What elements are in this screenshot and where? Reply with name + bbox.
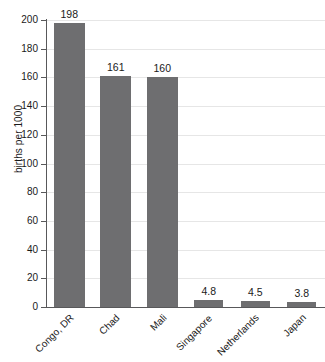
y-axis-tick-label: 60 xyxy=(6,216,38,226)
bar[interactable] xyxy=(194,300,223,307)
x-axis-category-label[interactable]: Singapore xyxy=(174,312,214,352)
y-axis-tick-label: 80 xyxy=(6,187,38,197)
x-axis-category-label[interactable]: Chad xyxy=(97,312,122,337)
bar-value-label: 4.5 xyxy=(230,287,280,298)
y-axis-tick-label: 180 xyxy=(6,44,38,54)
bar-value-label: 160 xyxy=(137,63,187,74)
y-axis-tick-label: 140 xyxy=(6,101,38,111)
y-axis-tick-label: 0 xyxy=(6,302,38,312)
bar[interactable] xyxy=(54,23,85,307)
y-axis-tick-label: 100 xyxy=(6,159,38,169)
bar-value-label: 4.8 xyxy=(184,286,234,297)
x-axis-category-label[interactable]: Netherlands xyxy=(215,312,261,358)
y-axis-tick-label: 20 xyxy=(6,273,38,283)
bar[interactable] xyxy=(287,302,316,307)
bar-value-label: 198 xyxy=(44,9,94,20)
bar[interactable] xyxy=(147,77,178,307)
bar-chart: births per 1000 020406080100120140160180… xyxy=(0,0,325,362)
y-axis-tick-label: 40 xyxy=(6,245,38,255)
y-axis-tick-label: 160 xyxy=(6,72,38,82)
y-axis-tick-label: 120 xyxy=(6,130,38,140)
x-axis-category-label[interactable]: Japan xyxy=(281,312,308,339)
bar[interactable] xyxy=(241,301,270,307)
bar-value-label: 161 xyxy=(91,62,141,73)
x-axis-category-label[interactable]: Mali xyxy=(148,312,169,333)
bar-value-label: 3.8 xyxy=(277,288,325,299)
x-axis-line xyxy=(46,307,325,308)
y-axis-tick xyxy=(41,307,46,308)
bar[interactable] xyxy=(100,76,131,307)
y-axis-tick-label: 200 xyxy=(6,15,38,25)
x-axis-category-label[interactable]: Congo, DR xyxy=(33,312,76,355)
